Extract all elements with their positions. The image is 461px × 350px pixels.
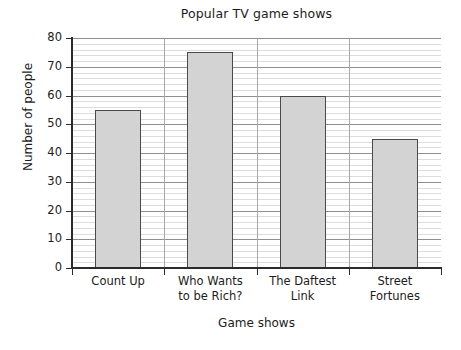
category-label-line: Link — [257, 289, 349, 304]
x-axis-category-label: Count Up — [72, 274, 164, 289]
x-axis-category-label: The DaftestLink — [257, 274, 349, 304]
y-axis-tick — [66, 153, 71, 154]
y-axis-tick — [66, 124, 71, 125]
bar — [187, 52, 233, 268]
bar — [95, 110, 141, 268]
gridline-minor — [72, 55, 441, 56]
category-label-line: Who Wants — [164, 274, 256, 289]
gridline-major — [72, 67, 441, 68]
category-label-line: Count Up — [72, 274, 164, 289]
x-axis-category-label: StreetFortunes — [349, 274, 441, 304]
gridline-minor — [72, 78, 441, 79]
category-label-line: Fortunes — [349, 289, 441, 304]
bar — [280, 96, 326, 269]
gridline-major — [72, 96, 441, 97]
gridline-minor — [72, 84, 441, 85]
gridline-minor — [72, 90, 441, 91]
bar-chart: Popular TV game shows 01020304050607080 … — [0, 0, 461, 350]
gridline-minor — [72, 61, 441, 62]
y-axis-tick — [66, 268, 71, 269]
gridline-minor — [72, 50, 441, 51]
y-axis-title: Number of people — [21, 37, 35, 197]
gridline-vertical — [257, 38, 258, 268]
gridline-minor — [72, 44, 441, 45]
y-axis-line — [71, 37, 73, 269]
y-axis-tick-label: 10 — [22, 231, 62, 245]
category-label-line: to be Rich? — [164, 289, 256, 304]
y-axis-tick — [66, 67, 71, 68]
y-axis-tick — [66, 182, 71, 183]
x-axis-title: Game shows — [72, 316, 441, 330]
category-label-line: The Daftest — [257, 274, 349, 289]
y-axis-tick-label: 20 — [22, 203, 62, 217]
x-axis-tick — [441, 269, 442, 275]
gridline-vertical — [349, 38, 350, 268]
y-axis-tick — [66, 239, 71, 240]
gridline-minor — [72, 101, 441, 102]
gridline-minor — [72, 107, 441, 108]
gridline-minor — [72, 73, 441, 74]
y-axis-tick — [66, 96, 71, 97]
bar — [372, 139, 418, 268]
category-label-line: Street — [349, 274, 441, 289]
gridline-major — [72, 38, 441, 39]
chart-title: Popular TV game shows — [72, 6, 441, 21]
y-axis-tick — [66, 211, 71, 212]
y-axis-tick — [66, 38, 71, 39]
plot-area — [72, 38, 441, 268]
y-axis-tick-label: 0 — [22, 260, 62, 274]
x-axis-category-label: Who Wantsto be Rich? — [164, 274, 256, 304]
gridline-vertical — [164, 38, 165, 268]
